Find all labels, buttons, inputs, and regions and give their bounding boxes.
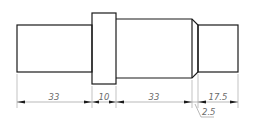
dim-chamfer: 2.5 xyxy=(202,107,216,117)
left-cylinder xyxy=(17,25,92,72)
shaft-drawing: 33 10 33 17.5 2.5 xyxy=(0,0,254,132)
middle-cylinder xyxy=(116,19,198,78)
dim-middle-cylinder: 33 xyxy=(149,92,160,102)
shaft-outline xyxy=(17,13,238,84)
dim-collar: 10 xyxy=(99,92,110,102)
right-cylinder xyxy=(198,25,238,72)
dim-right-cylinder: 17.5 xyxy=(209,92,228,102)
collar xyxy=(92,13,116,84)
dim-left-cylinder: 33 xyxy=(49,92,60,102)
